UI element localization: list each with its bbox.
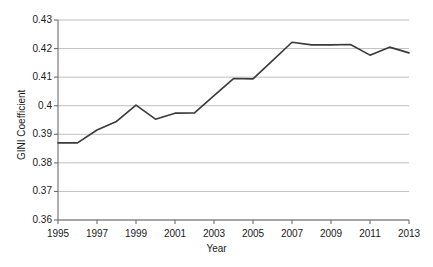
y-axis-tick-label: 0.43 [10, 14, 52, 25]
x-axis-tick-label: 2007 [272, 228, 312, 239]
x-axis-tick-label: 1995 [38, 228, 78, 239]
x-axis-tick-label: 2005 [233, 228, 273, 239]
data-series-line [58, 42, 409, 143]
axis-ticks [54, 20, 409, 224]
y-axis-tick-label: 0.37 [10, 185, 52, 196]
gini-coefficient-line-chart: 0.430.420.410.40.390.380.370.36 19951997… [0, 0, 433, 267]
plot-area [0, 0, 433, 267]
y-axis-tick-label: 0.42 [10, 43, 52, 54]
x-axis-tick-label: 2003 [194, 228, 234, 239]
x-axis-tick-label: 2011 [350, 228, 390, 239]
x-axis-tick-label: 1999 [116, 228, 156, 239]
y-axis-tick-label: 0.36 [10, 214, 52, 225]
gridlines [58, 20, 409, 220]
y-axis-tick-label: 0.41 [10, 71, 52, 82]
y-axis-title: GINI Coefficient [16, 90, 27, 160]
x-axis-tick-label: 2013 [389, 228, 429, 239]
x-axis-title: Year [0, 243, 433, 254]
x-axis-tick-label: 2001 [155, 228, 195, 239]
x-axis-tick-label: 2009 [311, 228, 351, 239]
x-axis-tick-label: 1997 [77, 228, 117, 239]
